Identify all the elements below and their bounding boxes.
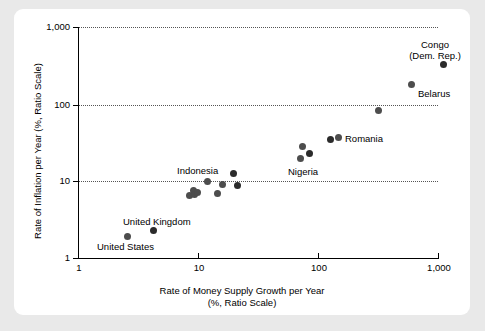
y-tick-100: [73, 105, 79, 106]
data-point: [306, 150, 313, 157]
data-point: [327, 136, 334, 143]
data-point: [219, 181, 226, 188]
point-label-congo-line1: Congo: [396, 39, 474, 50]
data-point-united-kingdom: [150, 227, 157, 234]
data-point: [299, 143, 306, 150]
x-axis-title-line2: (%, Ratio Scale): [14, 297, 470, 309]
gridline-10: [78, 181, 438, 182]
data-point-united-states: [124, 233, 131, 240]
data-point: [234, 182, 241, 189]
x-tick-1000: [438, 253, 439, 259]
scatter-plot: 1,000 100 10 1 1 10 100 1,000 Rate of In…: [14, 9, 470, 315]
x-tick-label-100: 100: [298, 263, 340, 273]
data-point: [375, 107, 382, 114]
x-tick-label-1: 1: [58, 263, 100, 273]
x-axis-line: [78, 258, 438, 259]
y-tick-10: [73, 181, 79, 182]
data-point: [214, 190, 221, 197]
point-label-congo: Congo (Dem. Rep.): [396, 39, 474, 61]
x-tick-10: [198, 253, 199, 259]
data-point-romania: [335, 134, 342, 141]
gridline-100: [78, 105, 438, 106]
x-tick-label-10: 10: [178, 263, 220, 273]
point-label-romania: Romania: [345, 133, 383, 144]
x-tick-1: [78, 253, 79, 259]
x-tick-label-1000: 1,000: [418, 263, 460, 273]
data-point-indonesia: [204, 178, 211, 185]
point-label-united-kingdom: United Kingdom: [123, 216, 191, 227]
data-point: [230, 170, 237, 177]
x-tick-100: [318, 253, 319, 259]
y-tick-1000: [73, 27, 79, 28]
y-axis-title: Rate of Inflation per Year (%, Ratio Sca…: [32, 31, 44, 271]
x-axis-title-line1: Rate of Money Supply Growth per Year: [14, 285, 470, 297]
point-label-indonesia: Indonesia: [177, 165, 218, 176]
point-label-nigeria: Nigeria: [288, 166, 318, 177]
data-point-congo: [440, 61, 447, 68]
point-label-belarus: Belarus: [418, 88, 450, 99]
data-point-belarus: [408, 81, 415, 88]
gridline-1000: [78, 27, 438, 28]
x-axis-title: Rate of Money Supply Growth per Year (%,…: [14, 285, 470, 309]
data-point: [194, 189, 201, 196]
data-point-nigeria: [297, 155, 304, 162]
y-axis-line: [78, 27, 79, 259]
point-label-congo-line2: (Dem. Rep.): [396, 50, 474, 61]
point-label-united-states: United States: [97, 241, 154, 252]
figure-panel: 1,000 100 10 1 1 10 100 1,000 Rate of In…: [14, 9, 470, 315]
